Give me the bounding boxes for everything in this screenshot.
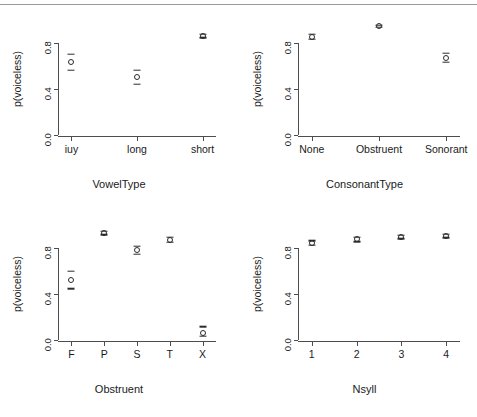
- x-axis-title: VowelType: [0, 178, 238, 190]
- y-axis-tick-label: 0.0: [283, 133, 293, 146]
- data-point: [101, 230, 107, 236]
- x-axis-tick: [170, 342, 171, 346]
- y-axis-line: [298, 43, 299, 135]
- y-axis-tick-label: 0.8: [283, 41, 293, 54]
- y-axis-tick-label: 0.4: [283, 87, 293, 100]
- x-axis-tick: [379, 137, 380, 141]
- error-bar-lower-cap: [68, 288, 75, 289]
- x-axis-tick: [137, 137, 138, 141]
- data-point: [167, 237, 173, 243]
- y-axis-title: p(voiceless): [250, 225, 264, 342]
- y-axis-line: [298, 248, 299, 340]
- x-axis-tick-label: F: [68, 349, 74, 360]
- data-point: [134, 247, 140, 253]
- data-point: [134, 74, 140, 80]
- error-bar-lower-cap: [134, 84, 141, 85]
- x-axis-tick: [71, 137, 72, 141]
- panel-consonant-type: p(voiceless) 0.00.40.8NoneObstruentSonor…: [238, 6, 477, 211]
- plot-area: 0.00.40.81234: [298, 225, 460, 342]
- error-bar-upper-cap: [68, 54, 75, 55]
- x-axis-tick: [312, 342, 313, 346]
- panel-obstruent: p(voiceless) 0.00.40.8FPSTX Obstruent: [0, 211, 238, 417]
- x-axis-tick-label: long: [127, 144, 147, 155]
- y-axis-tick-label: 0.8: [43, 246, 53, 259]
- y-axis-tick: [54, 43, 58, 44]
- data-point: [443, 233, 449, 239]
- x-axis-line: [298, 341, 460, 342]
- x-axis-tick-label: 3: [398, 349, 404, 360]
- y-axis-tick: [294, 43, 298, 44]
- error-bar-lower-cap: [443, 62, 450, 63]
- x-axis-title: Obstruent: [0, 383, 238, 395]
- data-point: [309, 240, 315, 246]
- error-bar-upper-cap: [443, 53, 450, 54]
- x-axis-tick-label: S: [133, 349, 140, 360]
- x-axis-tick: [357, 342, 358, 346]
- top-horizontal-rule: [0, 4, 477, 5]
- x-axis-tick-label: 1: [309, 349, 315, 360]
- x-axis-tick: [446, 342, 447, 346]
- y-axis-tick-label: 0.0: [43, 338, 53, 351]
- y-axis-tick-label: 0.4: [43, 87, 53, 100]
- y-axis-tick: [54, 294, 58, 295]
- x-axis-tick-label: 4: [443, 349, 449, 360]
- x-axis-tick: [203, 137, 204, 141]
- error-bar-upper-cap: [199, 326, 206, 327]
- x-axis-tick-label: Obstruent: [356, 144, 402, 155]
- x-axis-tick: [71, 342, 72, 346]
- error-bar-upper-cap: [134, 70, 141, 71]
- data-point: [354, 236, 360, 242]
- x-axis-title: ConsonantType: [252, 178, 477, 190]
- y-axis-title: p(voiceless): [10, 20, 24, 137]
- x-axis-tick-label: T: [167, 349, 173, 360]
- plot-area: 0.00.40.8NoneObstruentSonorant: [298, 20, 460, 137]
- y-axis-tick-label: 0.4: [283, 292, 293, 305]
- plot-area: 0.00.40.8FPSTX: [58, 225, 216, 342]
- y-axis-tick-label: 0.0: [43, 133, 53, 146]
- panel-vowel-type: p(voiceless) 0.00.40.8iuylongshort Vowel…: [0, 6, 238, 211]
- y-axis-title: p(voiceless): [10, 225, 24, 342]
- x-axis-tick-label: P: [101, 349, 108, 360]
- y-axis-tick: [294, 89, 298, 90]
- x-axis-tick-label: short: [191, 144, 214, 155]
- y-axis-tick-label: 0.8: [43, 41, 53, 54]
- data-point: [200, 33, 206, 39]
- y-axis-tick: [54, 248, 58, 249]
- panel-nsyll: p(voiceless) 0.00.40.81234 Nsyll: [238, 211, 477, 417]
- data-point: [309, 34, 315, 40]
- panel-grid: p(voiceless) 0.00.40.8iuylongshort Vowel…: [0, 6, 477, 417]
- y-axis-line: [58, 248, 59, 340]
- x-axis-tick: [104, 342, 105, 346]
- y-axis-tick-label: 0.8: [283, 246, 293, 259]
- x-axis-tick-label: 2: [354, 349, 360, 360]
- x-axis-title: Nsyll: [252, 383, 477, 395]
- data-point: [200, 330, 206, 336]
- y-axis-tick-label: 0.4: [43, 292, 53, 305]
- data-point: [68, 59, 74, 65]
- y-axis-tick: [294, 294, 298, 295]
- error-bar-lower-cap: [68, 70, 75, 71]
- y-axis-tick: [294, 248, 298, 249]
- x-axis-tick: [312, 137, 313, 141]
- y-axis-line: [58, 43, 59, 135]
- x-axis-tick: [137, 342, 138, 346]
- x-axis-tick: [446, 137, 447, 141]
- y-axis-tick: [54, 89, 58, 90]
- y-axis-tick-label: 0.0: [283, 338, 293, 351]
- x-axis-tick-label: X: [199, 349, 206, 360]
- y-axis-title: p(voiceless): [250, 20, 264, 137]
- data-point: [398, 234, 404, 240]
- data-point: [443, 55, 449, 61]
- x-axis-tick: [203, 342, 204, 346]
- error-bar-upper-cap: [68, 270, 75, 271]
- x-axis-tick: [401, 342, 402, 346]
- x-axis-tick-label: iuy: [65, 144, 78, 155]
- data-point: [376, 23, 382, 29]
- data-point: [68, 277, 74, 283]
- plot-area: 0.00.40.8iuylongshort: [58, 20, 216, 137]
- error-bar-lower-cap: [134, 254, 141, 255]
- x-axis-tick-label: None: [299, 144, 324, 155]
- x-axis-tick-label: Sonorant: [425, 144, 468, 155]
